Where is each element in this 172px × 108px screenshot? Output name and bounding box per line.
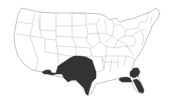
shaded-region-texas-oklahoma bbox=[42, 56, 96, 95]
shaded-region-florida-panhandle bbox=[119, 77, 132, 82]
us-map: Contiguous United States bbox=[0, 0, 172, 108]
us-map-svg bbox=[0, 0, 172, 108]
